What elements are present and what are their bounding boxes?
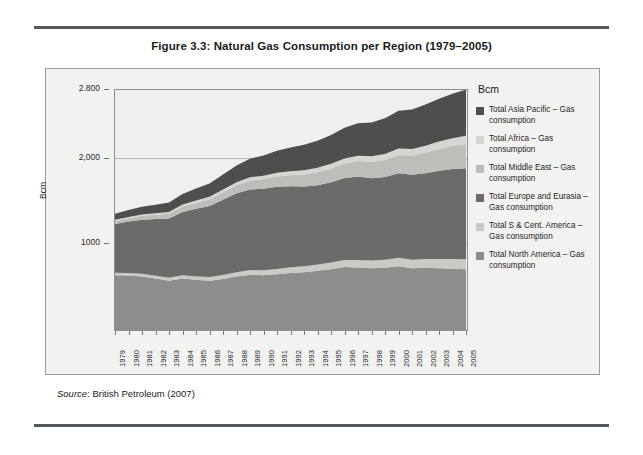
x-tick-mark: [277, 331, 278, 335]
x-tick-label: 2000: [402, 350, 411, 367]
x-tick-mark: [169, 331, 170, 335]
source-label: Source: [57, 388, 87, 399]
x-tick-mark: [115, 331, 116, 335]
x-tick-label: 1987: [226, 350, 235, 367]
source-text: : British Petroleum (2007): [87, 388, 195, 399]
x-tick-label: 1979: [118, 350, 127, 367]
x-tick-mark: [196, 331, 197, 335]
x-tick-label: 1984: [186, 350, 195, 367]
stacked-area-svg: [115, 90, 467, 330]
x-tick-mark: [156, 331, 157, 335]
y-tick-label: 2.800: [79, 83, 100, 93]
page-title: Figure 3.3: Natural Gas Consumption per …: [34, 40, 609, 52]
legend-item-label: Total Middle East – Gas consumption: [489, 163, 594, 184]
x-tick-label: 1994: [321, 350, 330, 367]
legend-item-label: Total North America – Gas consumption: [489, 250, 594, 271]
x-tick-label: 1983: [172, 350, 181, 367]
x-tick-label: 1993: [307, 350, 316, 367]
x-tick-label: 1999: [388, 350, 397, 367]
x-tick-label: 1982: [159, 350, 168, 367]
x-tick-mark: [210, 331, 211, 335]
x-tick-mark: [358, 331, 359, 335]
x-tick-mark: [345, 331, 346, 335]
legend-swatch-icon: [476, 107, 484, 115]
x-tick-label: 1986: [213, 350, 222, 367]
legend-swatch-icon: [476, 252, 484, 260]
x-tick-mark: [412, 331, 413, 335]
legend-item[interactable]: Total Europe and Eurasia – Gas consumpti…: [476, 192, 594, 213]
x-tick-label: 2001: [415, 350, 424, 367]
x-tick-label: 1989: [253, 350, 262, 367]
x-tick-mark: [466, 331, 467, 335]
legend-swatch-icon: [476, 223, 484, 231]
legend-item-label: Total S & Cent. America – Gas consumptio…: [489, 221, 594, 242]
x-tick-mark: [331, 331, 332, 335]
x-tick-mark: [453, 331, 454, 335]
legend-title: Bcm: [478, 83, 594, 95]
legend-item[interactable]: Total Asia Pacific – Gas consumption: [476, 105, 594, 126]
legend-item[interactable]: Total Africa – Gas consumption: [476, 134, 594, 155]
x-tick-label: 1998: [375, 350, 384, 367]
legend-item[interactable]: Total Middle East – Gas consumption: [476, 163, 594, 184]
x-tick-mark: [385, 331, 386, 335]
figure-page: Figure 3.3: Natural Gas Consumption per …: [0, 0, 643, 455]
x-tick-label: 2005: [469, 350, 478, 367]
y-tick-mark: [104, 89, 109, 90]
x-tick-label: 2003: [442, 350, 451, 367]
x-tick-mark: [439, 331, 440, 335]
legend-item[interactable]: Total North America – Gas consumption: [476, 250, 594, 271]
legend-swatch-icon: [476, 194, 484, 202]
y-tick-label: 1000: [81, 237, 100, 247]
x-tick-mark: [399, 331, 400, 335]
x-tick-mark: [142, 331, 143, 335]
legend-item[interactable]: Total S & Cent. America – Gas consumptio…: [476, 221, 594, 242]
legend-item-label: Total Asia Pacific – Gas consumption: [489, 105, 594, 126]
figure-rule-bottom: [34, 424, 609, 427]
x-tick-label: 1988: [240, 350, 249, 367]
x-tick-mark: [304, 331, 305, 335]
x-tick-mark: [223, 331, 224, 335]
x-tick-label: 1990: [267, 350, 276, 367]
x-tick-label: 1981: [145, 350, 154, 367]
x-tick-label: 1985: [199, 350, 208, 367]
x-tick-label: 2002: [429, 350, 438, 367]
y-tick-mark: [104, 243, 109, 244]
x-tick-mark: [426, 331, 427, 335]
y-axis: 2.8002,0001000: [46, 89, 109, 329]
x-tick-label: 1995: [334, 350, 343, 367]
source-caption: Source: British Petroleum (2007): [57, 388, 195, 399]
legend-swatch-icon: [476, 165, 484, 173]
x-tick-label: 1997: [361, 350, 370, 367]
x-tick-label: 1992: [294, 350, 303, 367]
y-tick-label: 2,000: [79, 152, 100, 162]
plot-area: [114, 89, 468, 331]
chart-container: Bcm 2.8002,0001000 197919801981198219831…: [45, 68, 600, 375]
x-axis: 1979198019811982198319841985198619871988…: [114, 331, 468, 375]
x-tick-mark: [318, 331, 319, 335]
x-tick-mark: [129, 331, 130, 335]
legend-item-label: Total Europe and Eurasia – Gas consumpti…: [489, 192, 594, 213]
legend: Bcm Total Asia Pacific – Gas consumption…: [476, 83, 594, 279]
x-tick-label: 1991: [280, 350, 289, 367]
legend-item-label: Total Africa – Gas consumption: [489, 134, 594, 155]
figure-rule-top: [34, 26, 609, 29]
x-tick-mark: [372, 331, 373, 335]
x-tick-mark: [237, 331, 238, 335]
x-tick-mark: [183, 331, 184, 335]
x-tick-mark: [291, 331, 292, 335]
legend-swatch-icon: [476, 136, 484, 144]
x-tick-mark: [250, 331, 251, 335]
x-tick-label: 1980: [132, 350, 141, 367]
x-tick-label: 1996: [348, 350, 357, 367]
legend-rows: Total Asia Pacific – Gas consumptionTota…: [476, 105, 594, 271]
x-tick-label: 2004: [456, 350, 465, 367]
y-tick-mark: [104, 158, 109, 159]
x-tick-mark: [264, 331, 265, 335]
